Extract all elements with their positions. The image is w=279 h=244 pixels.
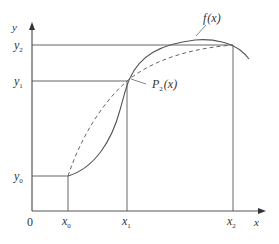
f-label: f(x) <box>203 11 221 25</box>
x-axis-arrow-icon <box>258 208 266 214</box>
x0-label: x0 <box>61 214 71 230</box>
x-axis-label: x <box>253 216 259 228</box>
axes <box>32 28 262 211</box>
y2-label: y2 <box>13 38 23 54</box>
y-axis-label: y <box>11 21 17 33</box>
guide-lines <box>32 45 233 211</box>
interpolation-diagram: f(x) P2(x) y x 0 y2 y1 y0 x0 x1 x2 <box>0 0 279 244</box>
p2-label: P2(x) <box>151 77 177 93</box>
p2-curve <box>68 45 233 176</box>
origin-label: 0 <box>27 215 33 229</box>
f-curve <box>68 40 249 176</box>
y0-label: y0 <box>13 169 23 185</box>
y-axis-arrow-icon <box>29 22 35 30</box>
f-label-leader <box>196 25 206 36</box>
x2-label: x2 <box>226 214 236 230</box>
p2-label-leader <box>131 79 146 84</box>
y1-label: y1 <box>13 74 23 90</box>
x1-label: x1 <box>121 214 131 230</box>
